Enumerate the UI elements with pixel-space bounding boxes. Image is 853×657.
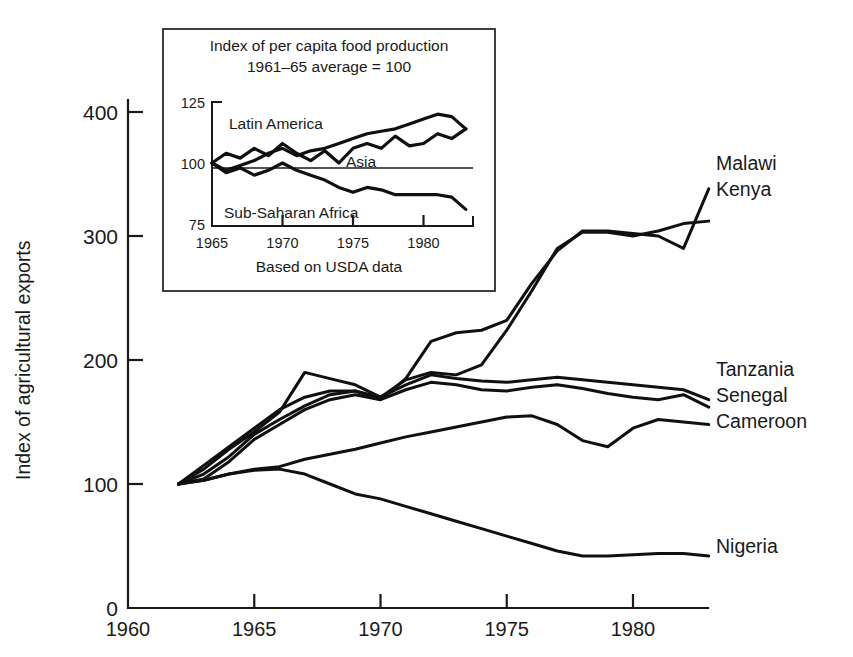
y-tick-label-100: 100 xyxy=(83,473,118,496)
series-label-group: MalawiKenyaTanzaniaSenegalCameroonNigeri… xyxy=(716,152,807,557)
series-label-tanzania: Tanzania xyxy=(716,358,794,380)
inset-y-tick-label-125: 125 xyxy=(181,95,205,111)
inset-caption: Based on USDA data xyxy=(256,258,403,275)
y-axis-title: Index of agricultural exports xyxy=(12,240,34,480)
chart-figure: 0100200300400 19601965197019751980 Index… xyxy=(0,0,853,657)
series-line-nigeria xyxy=(179,469,709,556)
series-label-kenya: Kenya xyxy=(716,178,771,200)
inset-panel: Index of per capita food production 1961… xyxy=(163,29,495,291)
x-tick-label-1980: 1980 xyxy=(611,618,656,640)
inset-label-asia: Asia xyxy=(346,153,377,170)
chart-canvas: 0100200300400 19601965197019751980 Index… xyxy=(0,0,853,657)
y-tick-marks xyxy=(128,112,143,484)
y-tick-labels: 0100200300400 xyxy=(83,101,118,620)
x-tick-label-1975: 1975 xyxy=(485,618,530,640)
inset-y-tick-label-75: 75 xyxy=(189,217,205,233)
series-label-cameroon: Cameroon xyxy=(716,410,807,432)
x-tick-marks xyxy=(254,594,633,608)
inset-y-tick-label-100: 100 xyxy=(181,156,205,172)
inset-x-tick-label-1970: 1970 xyxy=(266,235,298,251)
x-tick-label-1970: 1970 xyxy=(358,618,403,640)
inset-x-tick-label-1980: 1980 xyxy=(407,235,439,251)
series-label-senegal: Senegal xyxy=(716,384,788,406)
y-tick-label-300: 300 xyxy=(83,225,118,248)
y-tick-label-0: 0 xyxy=(106,597,118,620)
x-tick-label-1960: 1960 xyxy=(106,618,151,640)
inset-title-line1: Index of per capita food production xyxy=(210,37,449,54)
inset-x-tick-label-1965: 1965 xyxy=(196,235,228,251)
y-tick-label-200: 200 xyxy=(83,349,118,372)
y-tick-label-400: 400 xyxy=(83,101,118,124)
series-label-malawi: Malawi xyxy=(716,152,777,174)
series-label-nigeria: Nigeria xyxy=(716,535,778,557)
inset-label-sub-saharan-africa: Sub-Saharan Africa xyxy=(224,204,359,221)
inset-label-latin-america: Latin America xyxy=(229,115,323,132)
x-tick-labels: 19601965197019751980 xyxy=(106,618,656,640)
inset-title-line2: 1961–65 average = 100 xyxy=(247,58,412,75)
inset-x-tick-label-1975: 1975 xyxy=(337,235,369,251)
x-tick-label-1965: 1965 xyxy=(232,618,277,640)
